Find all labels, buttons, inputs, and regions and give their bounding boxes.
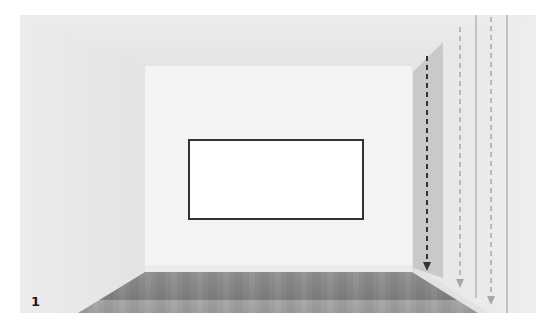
- room-illustration: [0, 0, 555, 330]
- left-wall: [20, 15, 145, 313]
- wooden-floor: [78, 272, 478, 313]
- back-baseboard: [145, 265, 412, 272]
- panel-label: 1: [31, 294, 40, 309]
- wall-frame: [189, 140, 363, 219]
